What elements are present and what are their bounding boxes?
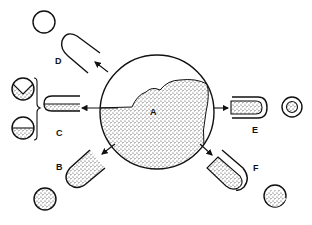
cell-a: A [95, 55, 214, 175]
capsule-b [66, 150, 105, 188]
label-d: D [55, 56, 62, 66]
label-e: E [252, 125, 258, 135]
structure-d: D [33, 11, 100, 73]
label-f: F [253, 163, 259, 173]
structure-b: B [34, 150, 105, 210]
structure-e: E [231, 97, 302, 135]
structure-f: F [207, 150, 286, 207]
diagram-canvas: A D C B E [0, 0, 312, 225]
circle-d [33, 11, 55, 33]
capsule-c-fill [44, 104, 80, 111]
circle-b [34, 188, 56, 210]
arrow-to-d [95, 62, 108, 72]
label-c: C [56, 128, 63, 138]
label-b: B [56, 162, 63, 172]
arrow-to-f [200, 144, 212, 155]
bracket-c [34, 78, 40, 140]
circle-e-inner [287, 102, 298, 113]
capsule-e-inner [231, 101, 262, 114]
circle-c-lower [12, 128, 34, 139]
stippled-mass-a [95, 80, 214, 176]
structure-c: C [12, 78, 80, 140]
capsule-d [62, 34, 100, 73]
label-a: A [150, 107, 157, 117]
